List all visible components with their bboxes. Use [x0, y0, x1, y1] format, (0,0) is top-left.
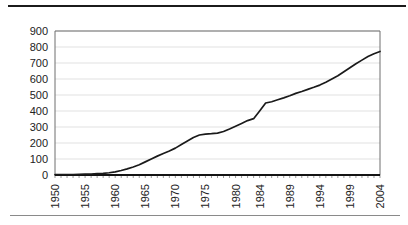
x-tick-label: 1980	[230, 184, 242, 208]
x-tick-label: 1999	[344, 184, 356, 208]
y-tick-label: 200	[30, 137, 48, 149]
y-axis-tick-labels: 0100200300400500600700800900	[30, 25, 48, 181]
chart-figure: 0100200300400500600700800900 19501955196…	[0, 0, 408, 225]
y-tick-label: 700	[30, 57, 48, 69]
y-tick-label: 300	[30, 121, 48, 133]
y-tick-label: 400	[30, 105, 48, 117]
x-tick-label: 1965	[139, 184, 151, 208]
data-series-line	[55, 51, 380, 174]
x-tick-label: 1960	[109, 184, 121, 208]
y-tick-label: 100	[30, 153, 48, 165]
y-tick-label: 800	[30, 41, 48, 53]
bottom-divider-rule	[10, 215, 400, 216]
x-tick-label: 1970	[169, 184, 181, 208]
top-divider-rule	[8, 5, 406, 7]
x-tick-label: 1994	[314, 184, 326, 208]
x-tick-label: 1984	[254, 184, 266, 208]
x-tick-label: 1955	[79, 184, 91, 208]
x-tick-label: 1950	[49, 184, 61, 208]
gridlines	[55, 31, 380, 159]
x-tick-label: 1975	[199, 184, 211, 208]
x-axis-tick-labels: 1950195519601965197019751980198419891994…	[49, 184, 386, 208]
y-tick-label: 900	[30, 25, 48, 37]
y-tick-label: 0	[42, 169, 48, 181]
x-tick-label: 2004	[374, 184, 386, 208]
x-tick-label: 1989	[284, 184, 296, 208]
line-chart: 0100200300400500600700800900 19501955196…	[0, 12, 408, 212]
y-tick-label: 500	[30, 89, 48, 101]
y-tick-label: 600	[30, 73, 48, 85]
plot-frame	[55, 31, 380, 175]
